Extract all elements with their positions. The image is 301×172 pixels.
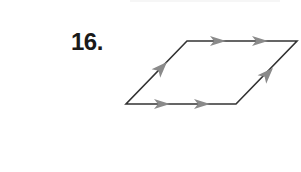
parallelogram-figure (0, 0, 301, 172)
right-side-arrow-icon (258, 64, 278, 84)
parallelogram-outline (126, 41, 297, 104)
